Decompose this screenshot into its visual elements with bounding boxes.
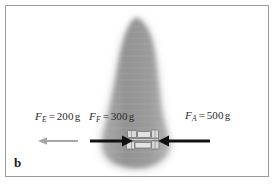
radiograph-canvas: [0, 0, 276, 184]
force-symbol: F: [185, 109, 192, 121]
interbody-fusion-device: [127, 130, 160, 149]
force-value: 500: [207, 109, 224, 121]
force-arrow-axial: [158, 135, 210, 146]
force-value: 300: [111, 110, 128, 122]
force-value: 200: [57, 110, 74, 122]
force-symbol: F: [89, 110, 96, 122]
force-arrow-extension: [38, 137, 78, 145]
equals-sign: =: [197, 109, 206, 121]
force-label-extension: FE=200g: [35, 110, 80, 124]
equals-sign: =: [101, 110, 110, 122]
force-symbol: F: [35, 110, 42, 122]
force-label-flexion: FF=300g: [89, 110, 134, 124]
equals-sign: =: [47, 110, 56, 122]
figure-panel-b: FE=200g FF=300g FA=500g b: [0, 0, 276, 184]
panel-letter: b: [14, 155, 21, 171]
force-label-axial: FA=500g: [185, 109, 230, 123]
force-unit: g: [224, 109, 231, 121]
force-unit: g: [128, 110, 135, 122]
force-unit: g: [74, 110, 81, 122]
